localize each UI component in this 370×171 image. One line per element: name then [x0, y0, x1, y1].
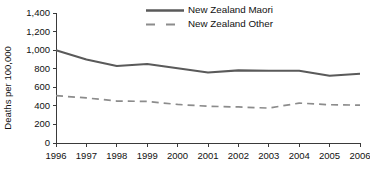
x-axis-tick-labels: 1996 1997 1998 1999 2000 2001 2002 2003 … — [45, 150, 370, 161]
line-chart: Deaths per 100,000 0 200 400 600 800 1,0… — [0, 0, 370, 171]
legend-label-new-zealand-maori: New Zealand Maori — [188, 4, 273, 15]
x-tick-label-2005: 2005 — [319, 150, 340, 161]
legend-label-new-zealand-other: New Zealand Other — [188, 18, 274, 29]
x-tick-label-1998: 1998 — [106, 150, 127, 161]
y-tick-label-0: 0 — [45, 137, 50, 148]
x-tick-label-2006: 2006 — [349, 150, 370, 161]
x-tick-label-2003: 2003 — [258, 150, 279, 161]
y-tick-label-1000: 1,000 — [26, 44, 50, 55]
x-tick-label-1996: 1996 — [45, 150, 66, 161]
y-axis-title: Deaths per 100,000 — [2, 46, 13, 129]
x-tick-label-1999: 1999 — [137, 150, 158, 161]
x-tick-label-2002: 2002 — [228, 150, 249, 161]
y-tick-label-400: 400 — [34, 100, 50, 111]
y-tick-label-200: 200 — [34, 118, 50, 129]
x-tick-label-2001: 2001 — [197, 150, 218, 161]
y-tick-label-1200: 1,200 — [26, 26, 50, 37]
x-tick-label-2000: 2000 — [167, 150, 188, 161]
x-tick-label-1997: 1997 — [76, 150, 97, 161]
y-tick-label-800: 800 — [34, 63, 50, 74]
y-tick-label-1400: 1,400 — [26, 7, 50, 18]
x-tick-label-2004: 2004 — [289, 150, 310, 161]
y-tick-label-600: 600 — [34, 81, 50, 92]
chart-canvas: Deaths per 100,000 0 200 400 600 800 1,0… — [0, 0, 370, 171]
